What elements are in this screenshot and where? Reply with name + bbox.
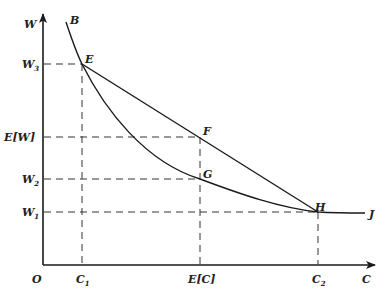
y-axis-label: W [24,18,38,31]
svg-text:C2: C2 [312,273,326,288]
label-h: H [314,201,326,214]
svg-text:E[C]: E[C] [187,273,216,286]
y-tick-w2: W2 [22,173,39,188]
label-f: F [202,125,212,138]
y-tick-w3: W3 [22,58,39,73]
x-axis-label: C [362,273,371,286]
y-tick-ew: E[W] [3,131,35,144]
indifference-curve [66,22,365,213]
x-tick-ec: E[C] [187,273,216,286]
svg-text:C1: C1 [76,273,90,288]
guide-lines [44,64,318,264]
label-g: G [203,168,212,181]
x-tick-c1: C1 [76,273,90,288]
svg-text:W1: W1 [22,206,39,221]
label-b: B [69,14,79,27]
origin-label: O [32,273,42,286]
y-tick-w1: W1 [22,206,39,221]
label-e: E [84,53,94,66]
svg-text:E[W]: E[W] [3,131,35,144]
label-j: J [367,208,375,221]
svg-text:W3: W3 [22,58,39,73]
x-tick-c2: C2 [312,273,326,288]
svg-text:W2: W2 [22,173,39,188]
utility-curve-diagram: B E F G H J W C O W3 E[W] W2 W1 C1 E[C] … [0,0,391,296]
